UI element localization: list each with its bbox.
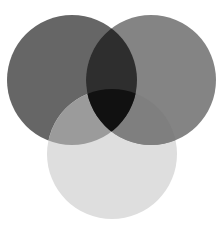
venn-diagram: [0, 0, 222, 225]
